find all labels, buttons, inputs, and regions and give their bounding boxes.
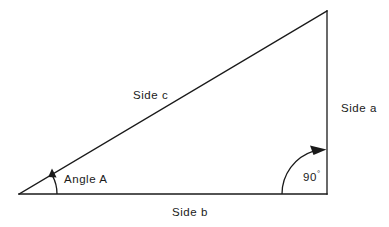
side-c-label: Side c (133, 90, 168, 102)
side-a-label: Side a (341, 103, 377, 115)
angle-a-label: Angle A (64, 174, 108, 186)
diagram-canvas: Side c Side a Side b Angle A 90° (0, 0, 389, 227)
triangle-diagram (0, 0, 389, 227)
side-b-label: Side b (172, 207, 208, 219)
right-angle-value: 90 (303, 171, 317, 183)
side-c-line (19, 11, 327, 194)
right-angle-label: 90° (303, 170, 321, 183)
right-angle-arrowhead (310, 146, 327, 156)
angle-a-arc (52, 176, 57, 194)
degree-symbol: ° (317, 169, 321, 178)
